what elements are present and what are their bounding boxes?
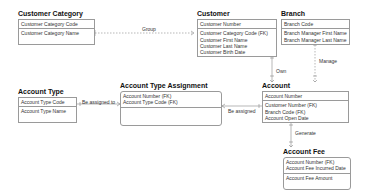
relationship-label-group: Group: [142, 26, 156, 32]
attribute-pk: Account Type Code: [21, 99, 74, 105]
entity-title: Account Fee: [283, 148, 351, 156]
relationship-label-generate: Generate: [295, 130, 316, 136]
entity-account-type-assignment[interactable]: Account Type Assignment Account Number (…: [120, 82, 222, 126]
entity-customer-category[interactable]: Customer Category Customer Category Code…: [18, 10, 95, 45]
entity-customer[interactable]: Customer Customer Number Customer Catego…: [197, 10, 277, 57]
attribute: Customer Birth Date: [200, 49, 274, 55]
entity-account-fee[interactable]: Account Fee Account Number (FK) Account …: [283, 148, 351, 190]
attribute-pk: Account Fee Incurred Date: [286, 165, 348, 171]
relationship-label-manage: Manage: [319, 58, 337, 64]
attribute: Branch Manager First Name: [284, 30, 347, 36]
attribute: Account Fee Amount: [286, 175, 348, 181]
attribute-pk: Customer Number: [200, 21, 274, 27]
relationship-label-be-assigned-to: Be assigned to: [82, 99, 115, 105]
entity-title: Account Type Assignment: [120, 82, 222, 90]
entity-title: Customer Category: [18, 10, 95, 18]
attribute-pk: Branch Code: [284, 21, 347, 27]
attribute: Branch Manager Last Name: [284, 37, 347, 43]
entity-account-type[interactable]: Account Type Account Type Code Account T…: [18, 88, 77, 123]
attribute: Customer Category Name: [21, 30, 92, 36]
attribute-pk: Customer Category Code: [21, 21, 92, 27]
attribute: Account Type Name: [21, 108, 74, 114]
attribute: Account Open Date: [265, 115, 346, 121]
attribute: Customer Category Code (FK): [200, 30, 274, 36]
entity-title: Account Type: [18, 88, 77, 96]
attribute-pk: Account Type Code (FK): [123, 99, 219, 105]
entity-title: Customer: [197, 10, 277, 18]
relationship-label-be-assigned: Be assigned: [228, 108, 256, 114]
relationship-label-own: Own: [276, 68, 286, 74]
entity-title: Account: [262, 82, 349, 90]
entity-branch[interactable]: Branch Branch Code Branch Manager First …: [281, 10, 350, 45]
attribute-pk: Account Number: [265, 93, 346, 99]
entity-title: Branch: [281, 10, 350, 18]
entity-account[interactable]: Account Account Number Customer Number (…: [262, 82, 349, 123]
